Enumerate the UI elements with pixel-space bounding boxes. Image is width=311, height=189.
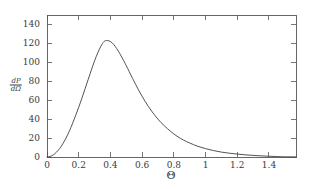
- y-tick-label: 20: [14, 134, 40, 143]
- y-axis-title-fraction: dP dΩ: [10, 78, 22, 93]
- y-tick-label: 60: [14, 96, 40, 105]
- y-axis-title: dP dΩ: [10, 78, 22, 93]
- y-axis-title-denominator: dΩ: [10, 86, 22, 93]
- x-axis-title: Θ: [166, 170, 175, 181]
- plot-frame: [47, 15, 296, 157]
- y-tick-label: 40: [14, 115, 40, 124]
- x-tick-label: 0.6: [135, 161, 149, 170]
- y-tick-label: 140: [14, 20, 40, 29]
- y-tick-label: 100: [14, 58, 40, 67]
- x-tick-label: 1: [203, 161, 209, 170]
- x-tick-label: 1.2: [230, 161, 244, 170]
- x-tick-label: 0.4: [103, 161, 117, 170]
- y-tick-label: 120: [14, 39, 40, 48]
- x-tick-label: 0.2: [72, 161, 86, 170]
- x-tick-label: 1.4: [262, 161, 276, 170]
- y-tick-label: 0: [14, 153, 40, 162]
- x-tick-label: 0: [44, 161, 50, 170]
- chart-figure: 0 20 40 60 80 100 120 140 0 0.2 0.4 0.6 …: [0, 0, 311, 189]
